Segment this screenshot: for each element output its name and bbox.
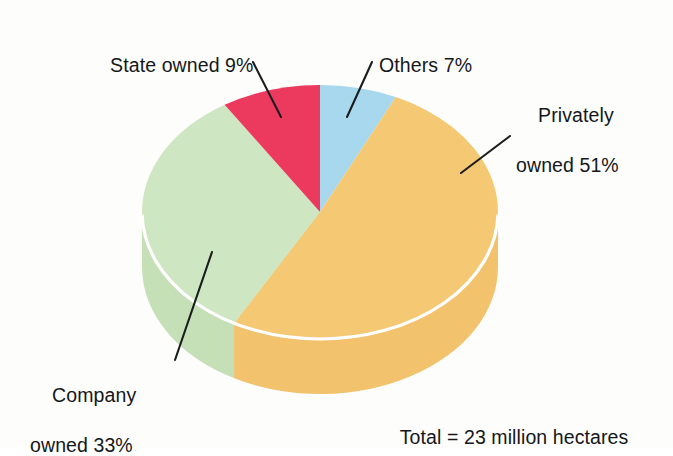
slice-label-others: Others 7% (357, 28, 472, 103)
slice-label-company-owned-line2: owned 33% (30, 433, 136, 456)
slice-label-others-text: Others 7% (379, 54, 472, 76)
slice-label-privately-owned: Privately owned 51% (516, 78, 619, 228)
slice-label-state-owned-text: State owned 9% (110, 54, 253, 76)
slice-label-company-owned-line1: Company (52, 384, 136, 406)
slice-label-privately-owned-line1: Privately (538, 104, 614, 126)
chart-total-annotation: Total = 23 million hectares (378, 400, 628, 456)
slice-label-company-owned: Company owned 33% (30, 358, 136, 456)
chart-total-annotation-text: Total = 23 million hectares (400, 426, 629, 448)
slice-label-state-owned: State owned 9% (88, 28, 254, 103)
slice-label-privately-owned-line2: owned 51% (516, 153, 619, 178)
